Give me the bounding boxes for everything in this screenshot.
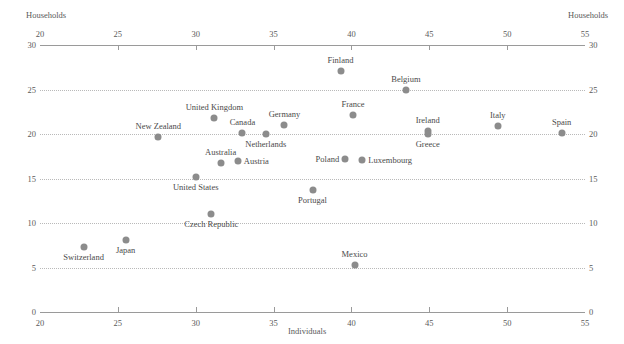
data-point-germany[interactable]	[281, 122, 288, 129]
point-label-portugal: Portugal	[298, 195, 327, 205]
y-tick-label-right-25: 25	[589, 85, 598, 95]
x-tick-label-top-50: 50	[503, 29, 512, 39]
x-tick-label-bottom-55: 55	[581, 318, 590, 328]
point-label-belgium: Belgium	[391, 74, 420, 84]
x-tick-label-top-20: 20	[36, 29, 45, 39]
y-tick-label-right-5: 5	[589, 263, 593, 273]
x-tick-bottom-50	[507, 307, 508, 312]
data-point-mexico[interactable]	[351, 261, 358, 268]
x-tick-label-bottom-25: 25	[114, 318, 123, 328]
point-label-greece: Greece	[416, 139, 440, 149]
x-tick-top-25	[118, 45, 119, 50]
x-tick-label-bottom-35: 35	[269, 318, 278, 328]
y-tick-label-left-20: 20	[28, 129, 37, 139]
data-point-spain[interactable]	[558, 130, 565, 137]
y-tick-label-left-0: 0	[32, 307, 36, 317]
point-label-finland: Finland	[328, 55, 354, 65]
scatter-chart: Households Households Individuals 202530…	[0, 0, 624, 344]
y-axis-title-right: Households	[568, 10, 608, 20]
y-tick-label-right-10: 10	[589, 218, 598, 228]
x-tick-top-40	[351, 45, 352, 50]
x-tick-label-bottom-45: 45	[425, 318, 434, 328]
x-tick-label-top-25: 25	[114, 29, 123, 39]
x-tick-label-top-55: 55	[581, 29, 590, 39]
point-label-japan: Japan	[116, 245, 135, 255]
x-tick-bottom-40	[351, 307, 352, 312]
gridline-y-10	[40, 223, 585, 224]
x-tick-bottom-35	[274, 307, 275, 312]
gridline-y-15	[40, 179, 585, 180]
x-tick-bottom-30	[196, 307, 197, 312]
point-label-luxembourg: Luxembourg	[368, 155, 412, 165]
y-axis-title-left: Households	[26, 10, 66, 20]
point-label-new-zealand: New Zealand	[136, 121, 182, 131]
x-tick-top-35	[274, 45, 275, 50]
gridline-y-20	[40, 134, 585, 135]
point-label-netherlands: Netherlands	[245, 139, 286, 149]
y-tick-label-right-15: 15	[589, 174, 598, 184]
data-point-czech-republic[interactable]	[208, 211, 215, 218]
data-point-greece[interactable]	[424, 131, 431, 138]
data-point-luxembourg[interactable]	[359, 156, 366, 163]
x-tick-label-bottom-30: 30	[191, 318, 200, 328]
y-tick-label-left-25: 25	[28, 85, 37, 95]
data-point-united-states[interactable]	[192, 173, 199, 180]
y-tick-label-right-20: 20	[589, 129, 598, 139]
data-point-australia[interactable]	[217, 160, 224, 167]
point-label-united-states: United States	[173, 182, 219, 192]
data-point-netherlands[interactable]	[262, 131, 269, 138]
data-point-poland[interactable]	[342, 155, 349, 162]
y-tick-label-left-15: 15	[28, 174, 37, 184]
point-label-spain: Spain	[552, 117, 571, 127]
data-point-finland[interactable]	[337, 67, 344, 74]
data-point-italy[interactable]	[494, 122, 501, 129]
x-tick-top-50	[507, 45, 508, 50]
point-label-austria: Austria	[244, 156, 269, 166]
x-tick-label-bottom-50: 50	[503, 318, 512, 328]
bottom-axis-line	[40, 312, 585, 313]
point-label-czech-republic: Czech Republic	[184, 219, 238, 229]
point-label-united-kingdom: United Kingdom	[186, 102, 243, 112]
point-label-france: France	[341, 99, 364, 109]
x-tick-bottom-45	[429, 307, 430, 312]
x-tick-top-45	[429, 45, 430, 50]
x-tick-label-top-35: 35	[269, 29, 278, 39]
x-tick-label-top-30: 30	[191, 29, 200, 39]
y-tick-label-left-30: 30	[28, 40, 37, 50]
y-tick-label-right-0: 0	[589, 307, 593, 317]
data-point-japan[interactable]	[122, 236, 129, 243]
x-tick-label-bottom-20: 20	[36, 318, 45, 328]
data-point-belgium[interactable]	[402, 87, 409, 94]
y-tick-label-left-10: 10	[28, 218, 37, 228]
data-point-switzerland[interactable]	[80, 244, 87, 251]
data-point-france[interactable]	[349, 112, 356, 119]
gridline-y-25	[40, 90, 585, 91]
x-tick-top-30	[196, 45, 197, 50]
x-axis-title: Individuals	[288, 326, 326, 336]
point-label-switzerland: Switzerland	[63, 252, 104, 262]
point-label-poland: Poland	[316, 154, 340, 164]
x-tick-label-top-45: 45	[425, 29, 434, 39]
point-label-australia: Australia	[205, 147, 236, 157]
data-point-austria[interactable]	[234, 157, 241, 164]
point-label-italy: Italy	[490, 110, 506, 120]
y-tick-label-right-30: 30	[589, 40, 598, 50]
data-point-new-zealand[interactable]	[155, 133, 162, 140]
x-tick-bottom-25	[118, 307, 119, 312]
top-axis-line	[40, 45, 585, 46]
x-tick-label-top-40: 40	[347, 29, 356, 39]
point-label-ireland: Ireland	[416, 115, 440, 125]
data-point-canada[interactable]	[239, 130, 246, 137]
data-point-portugal[interactable]	[309, 187, 316, 194]
point-label-canada: Canada	[230, 117, 256, 127]
x-tick-label-bottom-40: 40	[347, 318, 356, 328]
point-label-mexico: Mexico	[342, 249, 368, 259]
data-point-united-kingdom[interactable]	[211, 114, 218, 121]
plot-area: 2025303540455055 2025303540455055 051015…	[40, 45, 585, 312]
y-tick-label-left-5: 5	[32, 263, 36, 273]
gridline-y-5	[40, 268, 585, 269]
point-label-germany: Germany	[269, 109, 301, 119]
